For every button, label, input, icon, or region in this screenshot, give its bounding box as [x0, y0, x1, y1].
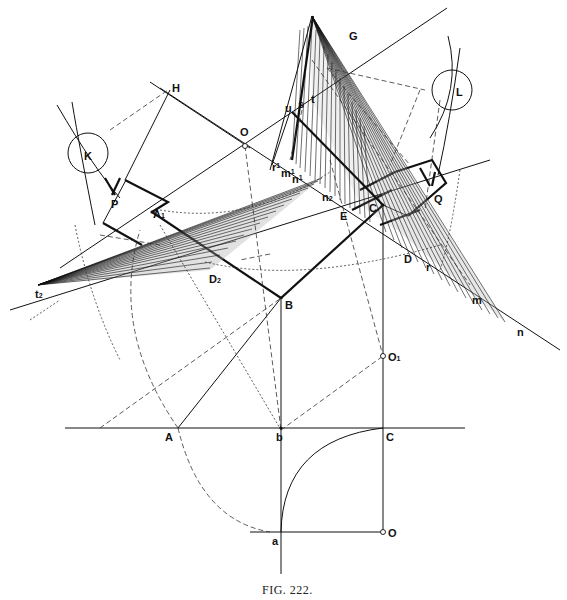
label-n1: n1 [292, 173, 303, 185]
label-G: G [349, 30, 358, 42]
label-t: t [311, 93, 315, 105]
quarter-arc [281, 428, 383, 532]
label-B: B [285, 299, 293, 311]
label-C-lower: C [386, 431, 394, 443]
figure-caption: FIG. 222. [262, 583, 313, 597]
label-L: L [456, 86, 463, 98]
label-n: n [517, 326, 524, 338]
label-u: u [285, 102, 292, 114]
geometry-figure: H O G s t u L K P A1 r1 m1 n1 n2 E C Q D… [0, 0, 567, 600]
circle-L [420, 36, 472, 186]
label-H: H [172, 82, 180, 94]
label-K: K [84, 150, 92, 162]
label-b: b [276, 431, 283, 443]
label-s: s [298, 98, 304, 110]
label-r: r [426, 261, 431, 273]
label-a: a [272, 535, 279, 547]
label-Q: Q [434, 193, 443, 205]
label-C-upper: C [369, 202, 377, 214]
label-r1: r1 [272, 161, 280, 173]
label-t2: t2 [35, 288, 43, 300]
label-O1: O1 [388, 351, 401, 363]
label-n2: n2 [322, 191, 333, 203]
label-O-bottom: O [388, 527, 397, 539]
label-D2: D2 [209, 273, 221, 285]
label-A1: A1 [153, 208, 165, 220]
label-O-top: O [240, 126, 249, 138]
hatched-shadow-left [38, 178, 322, 285]
label-A: A [165, 431, 173, 443]
label-D: D [404, 253, 412, 265]
label-E: E [340, 210, 347, 222]
label-P: P [111, 198, 118, 210]
label-m: m [472, 294, 482, 306]
